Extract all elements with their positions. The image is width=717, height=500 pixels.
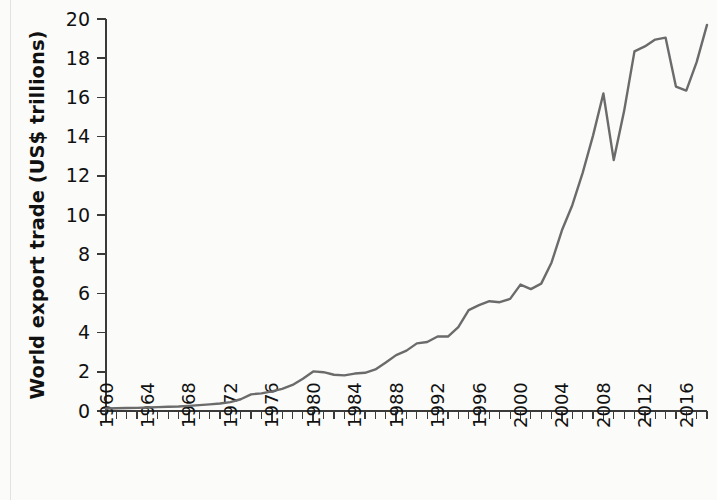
y-tick-label: 14 bbox=[66, 125, 90, 147]
y-tick-label: 10 bbox=[66, 204, 90, 226]
y-tick-label: 6 bbox=[78, 282, 90, 304]
y-axis-title: World export trade (US$ trillions) bbox=[26, 31, 49, 400]
x-tick-label: 2016 bbox=[676, 382, 697, 428]
y-tick-label: 2 bbox=[78, 360, 90, 382]
y-tick-label: 18 bbox=[66, 47, 90, 69]
page-background: World export trade (US$ trillions) 02468… bbox=[0, 0, 717, 500]
x-tick-label: 2008 bbox=[593, 382, 614, 428]
y-tick-label: 0 bbox=[78, 400, 90, 422]
y-tick-label: 4 bbox=[78, 321, 90, 343]
y-tick-label: 16 bbox=[66, 86, 90, 108]
y-tick-label: 12 bbox=[66, 164, 90, 186]
x-tick-label: 1964 bbox=[137, 382, 158, 428]
y-axis-title-label: World export trade (US$ trillions) bbox=[26, 31, 49, 400]
x-tick-label: 2012 bbox=[634, 382, 655, 428]
x-tick-label: 1960 bbox=[96, 382, 117, 428]
x-tick-label: 2004 bbox=[551, 382, 572, 428]
x-tick-label: 1984 bbox=[344, 382, 365, 428]
chart-svg: World export trade (US$ trillions) 02468… bbox=[0, 0, 717, 500]
y-tick-label: 20 bbox=[66, 8, 90, 30]
x-tick-label: 1980 bbox=[303, 382, 324, 428]
x-tick-label: 2000 bbox=[510, 382, 531, 428]
x-tick-label: 1996 bbox=[469, 382, 490, 428]
x-tick-label: 1972 bbox=[220, 382, 241, 428]
x-tick-label: 1992 bbox=[427, 382, 448, 428]
y-axis-ticks: 02468101214161820 bbox=[66, 8, 106, 422]
line-chart: World export trade (US$ trillions) 02468… bbox=[0, 0, 717, 500]
data-series-world-export-trade bbox=[106, 25, 707, 409]
y-tick-label: 8 bbox=[78, 243, 90, 265]
x-tick-label: 1988 bbox=[386, 382, 407, 428]
